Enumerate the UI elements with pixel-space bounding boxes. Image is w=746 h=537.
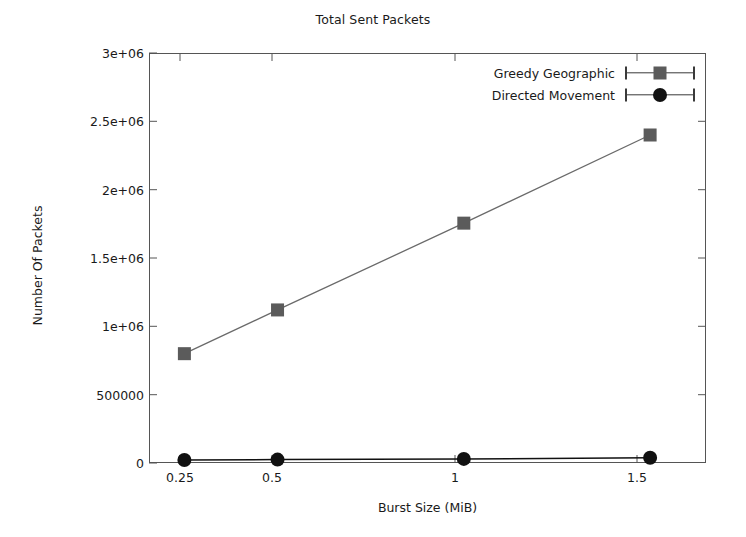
y-tick-label: 1e+06	[44, 319, 144, 334]
legend-item-directed-movement: Directed Movement	[497, 84, 697, 106]
legend-marker-circle	[623, 86, 697, 104]
circle-marker-icon	[653, 88, 667, 102]
x-axis-label: Burst Size (MiB)	[149, 500, 706, 515]
x-tick-label: 1.5	[627, 470, 647, 485]
y-tick-label: 0	[44, 456, 144, 471]
y-tick-label: 2.5e+06	[44, 114, 144, 129]
legend-item-greedy-geographic: Greedy Geographic	[497, 62, 697, 84]
y-tick-label: 3e+06	[44, 46, 144, 61]
x-tick-label: 1	[451, 470, 459, 485]
chart-figure: Total Sent Packets 0 500000 1e+06 1.5e+0…	[0, 0, 746, 537]
legend-label: Greedy Geographic	[494, 66, 623, 81]
chart-legend: Greedy Geographic Directed Movement	[497, 62, 697, 106]
y-axis-tick-labels: 0 500000 1e+06 1.5e+06 2e+06 2.5e+06 3e+…	[40, 0, 144, 537]
square-marker-icon	[654, 67, 667, 80]
x-tick-label: 0.25	[166, 470, 194, 485]
legend-marker-square	[623, 64, 697, 82]
y-tick-label: 1.5e+06	[44, 251, 144, 266]
plot-area	[149, 53, 706, 463]
y-tick-label: 2e+06	[44, 182, 144, 197]
y-axis-label: Number Of Packets	[30, 166, 45, 366]
legend-label: Directed Movement	[492, 88, 623, 103]
y-tick-label: 500000	[44, 387, 144, 402]
x-tick-label: 0.5	[262, 470, 282, 485]
